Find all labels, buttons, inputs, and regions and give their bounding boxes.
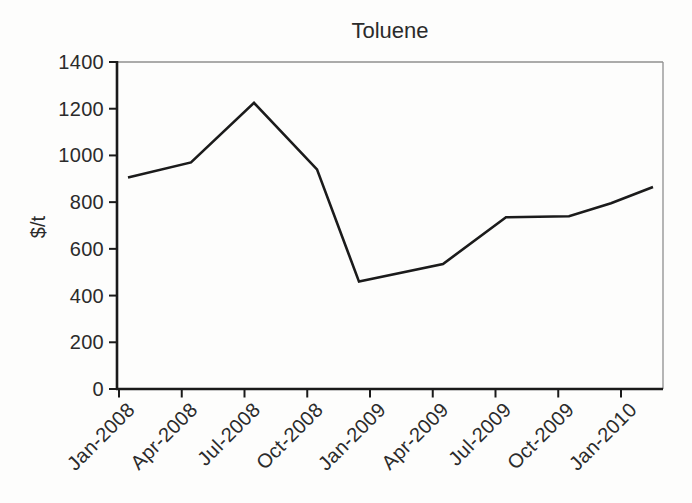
series-group (128, 103, 653, 282)
price-line (128, 103, 653, 282)
x-tick-label: Apr-2008 (126, 398, 201, 473)
x-tick-label: Jan-2010 (565, 398, 641, 474)
y-tick-label: 600 (70, 238, 104, 260)
y-tick-label: 1400 (58, 51, 104, 73)
chart-canvas: 1400120010008006004002000 Jan-2008Apr-20… (0, 0, 692, 503)
x-axis-ticks: Jan-2008Apr-2008Jul-2008Oct-2008Jan-2009… (63, 389, 641, 475)
plot-frame (116, 61, 663, 390)
y-tick-label: 400 (70, 285, 104, 307)
x-tick-label: Jan-2009 (314, 398, 390, 474)
y-tick-label: 1200 (58, 98, 104, 120)
y-tick-label: 200 (70, 331, 104, 353)
x-tick-label: Apr-2009 (377, 398, 452, 473)
y-axis-label: $/t (27, 215, 49, 238)
y-tick-label: 800 (70, 191, 104, 213)
y-axis-ticks: 1400120010008006004002000 (58, 51, 117, 400)
x-tick-label: Jan-2008 (63, 398, 139, 474)
y-tick-label: 1000 (58, 144, 104, 166)
y-tick-label: 0 (93, 378, 104, 400)
chart-title: Toluene (351, 18, 428, 43)
toluene-price-chart: 1400120010008006004002000 Jan-2008Apr-20… (0, 0, 692, 503)
